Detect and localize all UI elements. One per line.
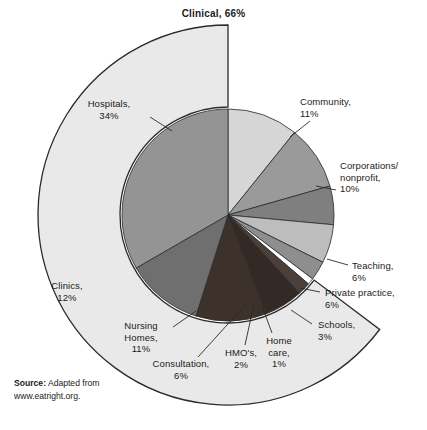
source-note: Source: Adapted from www.eatright.org. [14, 377, 164, 403]
pie-slices [122, 109, 334, 321]
leader-line-1 [290, 121, 310, 137]
pie-chart-graphic [0, 0, 427, 430]
source-text: Adapted from [46, 378, 100, 388]
source-url: www.eatright.org. [14, 391, 80, 401]
pie-chart: Clinical, 66% Hospitals, 34% Community, … [0, 0, 427, 430]
leader-line-3 [327, 259, 348, 265]
source-label: Source: [14, 378, 46, 388]
chart-title: Clinical, 66% [0, 8, 427, 19]
